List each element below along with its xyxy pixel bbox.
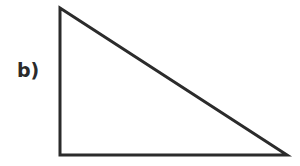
- right-triangle: [60, 8, 287, 155]
- triangle-diagram: [0, 0, 300, 166]
